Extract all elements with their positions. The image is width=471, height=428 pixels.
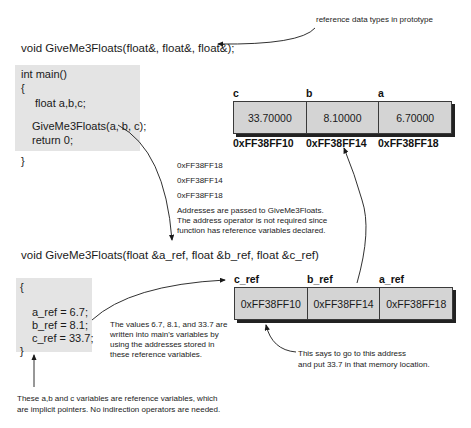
arrow-note-to-cref: [266, 325, 296, 352]
arrow-call-to-function: [118, 125, 172, 240]
connector-arrows: [0, 0, 471, 428]
arrow-ref-to-address: [344, 148, 366, 283]
arrow-prototype-note: [218, 28, 315, 44]
arrow-body-to-cref: [92, 280, 225, 320]
